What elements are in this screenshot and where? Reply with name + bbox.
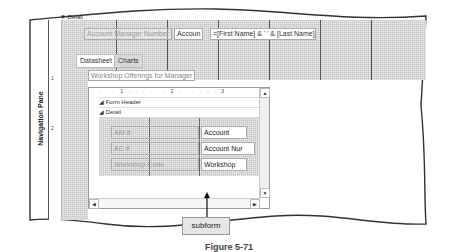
horizontal-scrollbar[interactable]: ◀ ▶: [89, 198, 260, 208]
name-expression-textbox[interactable]: =[First Name] & ' ' & [Last Name]: [210, 28, 316, 40]
account-manager-number-label[interactable]: Account Manager Number: [84, 28, 172, 40]
scroll-left-icon[interactable]: ◀: [89, 199, 99, 209]
ac-number-label[interactable]: AC #: [111, 142, 199, 155]
workshop-code-label[interactable]: Workshop Code: [111, 158, 199, 171]
screenshot-frame: Navigation Pane 1 2 ▼ Detail Account Man…: [16, 6, 438, 226]
workshop-field[interactable]: Workshop: [201, 158, 247, 171]
grid-line: [320, 20, 321, 80]
figure-caption: Figure 5-71: [205, 242, 253, 252]
scroll-up-icon[interactable]: ▲: [260, 88, 270, 98]
scroll-down-icon[interactable]: ▼: [260, 188, 270, 198]
account-number-field[interactable]: Account Nur: [201, 142, 255, 155]
form-header-section[interactable]: ◢ Form Header: [99, 98, 259, 108]
subform-title-label[interactable]: Workshop Offerings for Manager: [88, 70, 195, 81]
account-field[interactable]: Account: [201, 126, 247, 139]
navigation-pane[interactable]: Navigation Pane: [33, 20, 49, 220]
subform-horizontal-ruler: · · · 1 · · · · · · 2 · · · · · · 3: [99, 88, 259, 98]
account-textbox[interactable]: Accoun: [174, 28, 203, 40]
subform-callout: subform: [182, 217, 230, 235]
grid-line: [199, 118, 200, 176]
grid-line: [371, 20, 372, 80]
detail-section[interactable]: ◢ Detail: [99, 108, 259, 118]
tab-charts[interactable]: Charts: [114, 54, 143, 68]
form-detail-grid-lower: [62, 80, 88, 220]
subform-control[interactable]: · · · 1 · · · · · · 2 · · · · · · 3 ◢ Fo…: [88, 87, 270, 209]
navigation-pane-label: Navigation Pane: [37, 74, 44, 164]
tab-datasheet[interactable]: Datasheet: [76, 54, 116, 68]
vertical-ruler: 1 2: [49, 20, 62, 220]
detail-section-bar[interactable]: ▼ Detail: [60, 14, 83, 20]
scroll-right-icon[interactable]: ▶: [250, 199, 260, 209]
am-number-label[interactable]: AM #: [111, 126, 199, 139]
vertical-scrollbar[interactable]: ▲ ▼: [259, 88, 269, 198]
callout-arrow-icon: [202, 192, 212, 218]
